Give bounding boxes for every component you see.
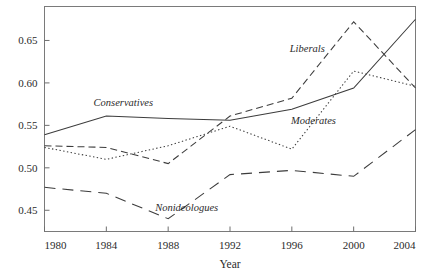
series-line-nonideologues [45,130,416,219]
x-tick-label: 1992 [219,239,241,251]
y-tick-label: 0.60 [18,77,38,89]
x-tick-label: 1980 [45,239,68,251]
series-label-nonideologues: Nonideologues [154,202,218,213]
series-line-conservatives [45,19,416,134]
series-label-liberals: Liberals [289,43,325,54]
x-tick-label: 1984 [95,239,118,251]
series-label-conservatives: Conservatives [94,97,154,108]
y-tick-label: 0.55 [18,119,38,131]
series-inline-labels: ConservativesLiberalsModeratesNonideolog… [94,43,336,214]
x-axis-title: Year [219,258,240,270]
chart-canvas: 0.450.500.550.600.65 1980198419881992199… [0,0,430,273]
x-tick-label: 1988 [157,239,180,251]
x-tick-label: 1996 [281,239,304,251]
y-axis-ticks [45,40,50,210]
series-line-moderates [45,71,416,159]
x-tick-label: 2000 [343,239,366,251]
x-axis-ticks [45,227,416,232]
y-tick-label: 0.50 [18,162,38,174]
y-tick-label: 0.65 [18,34,38,46]
series-lines [45,19,416,219]
y-axis-tick-labels: 0.450.500.550.600.65 [18,34,38,216]
y-tick-label: 0.45 [18,204,38,216]
plot-border [45,7,416,232]
series-line-liberals [45,22,416,164]
x-axis-tick-labels: 1980198419881992199620002004 [45,239,417,251]
line-chart: 0.450.500.550.600.65 1980198419881992199… [0,0,430,273]
x-tick-label: 2004 [394,239,417,251]
plot-frame [45,7,416,232]
series-label-moderates: Moderates [290,115,336,126]
